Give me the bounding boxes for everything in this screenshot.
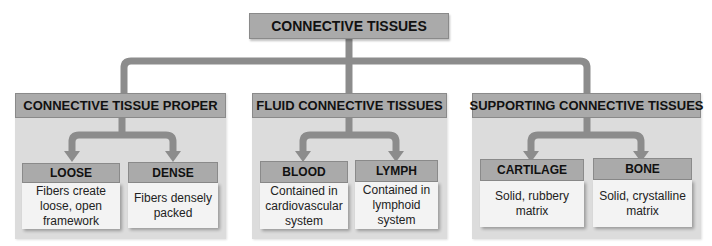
subtype-header-lymph: LYMPH bbox=[355, 160, 438, 182]
subtype-header-loose: LOOSE bbox=[22, 163, 120, 183]
subtype-body-blood: Contained in cardiovascular system bbox=[260, 183, 348, 229]
subtype-body-lymph: Contained in lymphoid system bbox=[355, 182, 438, 229]
category-header-supporting: SUPPORTING CONNECTIVE TISSUES bbox=[472, 93, 701, 118]
category-header-proper: CONNECTIVE TISSUE PROPER bbox=[15, 93, 226, 118]
subtype-header-blood: BLOOD bbox=[260, 161, 348, 183]
subtype-body-dense: Fibers densely packed bbox=[128, 183, 218, 228]
root-box: CONNECTIVE TISSUES bbox=[249, 13, 449, 39]
subtype-body-cartilage: Solid, rubbery matrix bbox=[480, 181, 584, 227]
subtype-body-bone: Solid, crystalline matrix bbox=[593, 180, 692, 227]
subtype-body-loose: Fibers create loose, open framework bbox=[22, 183, 120, 229]
subtype-header-bone: BONE bbox=[593, 158, 692, 180]
subtype-header-dense: DENSE bbox=[128, 162, 218, 183]
subtype-header-cartilage: CARTILAGE bbox=[480, 159, 584, 181]
category-header-fluid: FLUID CONNECTIVE TISSUES bbox=[252, 93, 447, 118]
